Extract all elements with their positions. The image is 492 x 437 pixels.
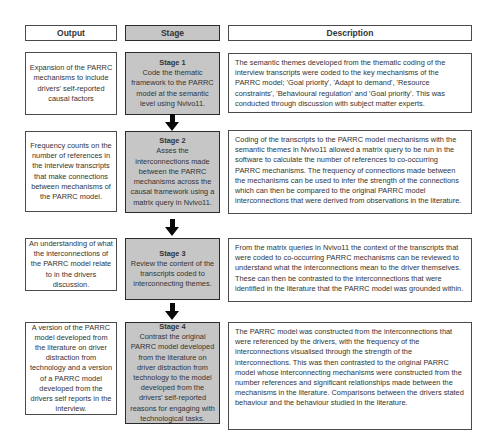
output-box-1: Expansion of the PARRC mechanisms to inc… bbox=[25, 52, 117, 115]
output-box-4: A version of the PARRC model developed f… bbox=[25, 322, 117, 415]
stage-box-1: Stage 1 Code the thematic framework to t… bbox=[125, 52, 220, 115]
stage-box-3: Stage 3 Review the content of the transc… bbox=[125, 238, 220, 300]
arrow-head bbox=[165, 122, 179, 131]
stage-1-title: Stage 1 bbox=[159, 58, 185, 68]
stage-box-4: Stage 4 Contrast the original PARRC mode… bbox=[125, 322, 220, 424]
down-arrow-icon bbox=[165, 303, 179, 320]
description-box-1: The semantic themes developed from the t… bbox=[228, 53, 472, 113]
description-box-2: Coding of the transcripts to the PARRC m… bbox=[228, 130, 472, 214]
column-header-output: Output bbox=[25, 25, 117, 41]
flow-diagram: Output Stage Description Expansion of th… bbox=[0, 0, 492, 437]
stage-3-body: Review the content of the transcripts co… bbox=[129, 259, 216, 290]
stage-3-title: Stage 3 bbox=[159, 249, 185, 259]
output-box-3: An understanding of what the interconnec… bbox=[25, 238, 117, 291]
stage-4-body: Contrast the original PARRC model develo… bbox=[129, 332, 216, 424]
stage-2-body: Asses the interconnections made between … bbox=[129, 146, 216, 207]
arrow-stem bbox=[170, 114, 175, 122]
column-header-description: Description bbox=[228, 25, 472, 41]
down-arrow-icon bbox=[165, 114, 179, 131]
arrow-stem bbox=[170, 303, 175, 311]
arrow-stem bbox=[170, 219, 175, 227]
column-header-stage: Stage bbox=[125, 25, 220, 41]
description-box-4: The PARRC model was constructed from the… bbox=[228, 322, 472, 430]
stage-2-title: Stage 2 bbox=[159, 136, 185, 146]
arrow-head bbox=[165, 227, 179, 236]
down-arrow-icon bbox=[165, 219, 179, 236]
output-box-2: Frequency counts on the number of refere… bbox=[25, 131, 117, 212]
stage-box-2: Stage 2 Asses the interconnections made … bbox=[125, 131, 220, 213]
stage-4-title: Stage 4 bbox=[159, 322, 185, 332]
description-box-3: From the matrix queries in Nvivo11 the c… bbox=[228, 238, 472, 302]
arrow-head bbox=[165, 311, 179, 320]
stage-1-body: Code the thematic framework to the PARRC… bbox=[129, 68, 216, 109]
